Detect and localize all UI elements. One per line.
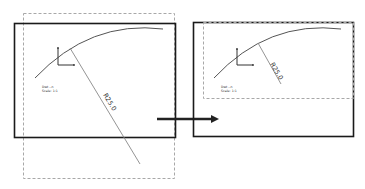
viewport-resize-diagram: R25.0 Dwt --n Scale: 1:1 R25.0 Dwt --n S… xyxy=(0,0,365,189)
right-note-line2: Scale: 1:1 xyxy=(221,89,237,93)
transition-arrow xyxy=(157,115,219,123)
left-panel: R25.0 Dwt --n Scale: 1:1 xyxy=(15,14,176,179)
right-dimension-label: R25.0 xyxy=(268,61,284,81)
left-paper-frame xyxy=(15,24,176,138)
left-note-line2: Scale: 1:1 xyxy=(42,89,58,93)
left-radial-line xyxy=(70,48,140,164)
left-arc xyxy=(35,28,163,78)
left-dimension-label: R25.0 xyxy=(101,92,118,112)
